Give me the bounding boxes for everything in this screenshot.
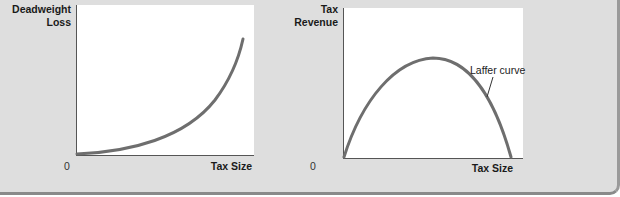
laffer-curve-label: Laffer curve — [470, 64, 525, 76]
left-y-label-line1: Deadweight — [12, 3, 71, 15]
right-origin-label: 0 — [310, 160, 316, 172]
left-y-label-line2: Loss — [46, 16, 71, 28]
right-y-label-line2: Revenue — [294, 16, 338, 28]
charts-canvas: Deadweight Loss 0 Tax Size Laffer curve … — [0, 0, 620, 197]
right-x-label: Tax Size — [472, 162, 513, 174]
right-plot-area — [343, 8, 523, 158]
left-origin-label: 0 — [64, 160, 70, 172]
deadweight-loss-chart: Deadweight Loss 0 Tax Size — [12, 3, 254, 172]
tax-revenue-chart: Laffer curve Tax Revenue 0 Tax Size — [294, 3, 525, 174]
left-x-label: Tax Size — [211, 160, 252, 172]
right-y-label-line1: Tax — [321, 3, 338, 15]
